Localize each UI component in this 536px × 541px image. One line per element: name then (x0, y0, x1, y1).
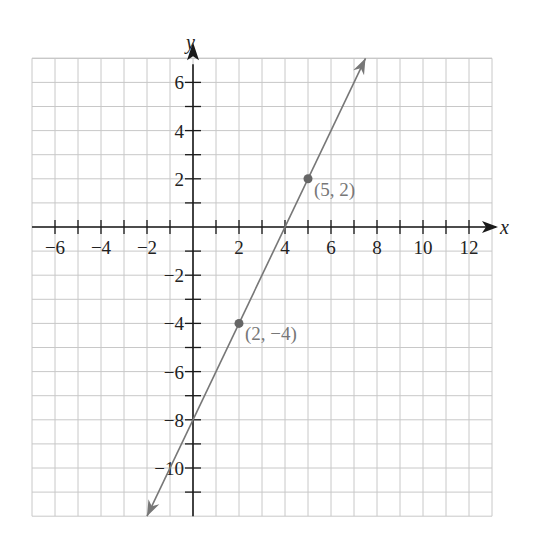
data-point-label: (2, −4) (245, 323, 297, 345)
grid-lines (32, 58, 492, 516)
data-point (235, 319, 244, 328)
coordinate-plane: −6−4−224681012642−2−4−6−8−10 (5, 2)(2, −… (0, 0, 536, 541)
x-tick-label: −4 (91, 237, 112, 258)
x-tick-label: 10 (414, 237, 433, 258)
x-tick-label: 4 (280, 237, 290, 258)
axes (32, 42, 498, 516)
x-axis-label: x (499, 216, 509, 238)
x-tick-label: −6 (45, 237, 65, 258)
y-tick-label: 4 (175, 121, 185, 142)
data-point (304, 174, 313, 183)
y-tick-label: −6 (164, 362, 184, 383)
y-tick-label: −2 (164, 265, 184, 286)
y-tick-label: −8 (164, 410, 184, 431)
x-tick-label: 2 (234, 237, 244, 258)
y-tick-label: −4 (164, 313, 185, 334)
plotted-points: (5, 2)(2, −4) (235, 174, 356, 345)
x-tick-label: 12 (460, 237, 479, 258)
y-tick-label: 2 (175, 169, 185, 190)
x-tick-label: −2 (137, 237, 157, 258)
y-tick-label: 6 (175, 72, 185, 93)
data-point-label: (5, 2) (314, 179, 355, 201)
x-tick-label: 6 (326, 237, 336, 258)
y-axis-label: y (184, 31, 195, 54)
x-tick-label: 8 (372, 237, 382, 258)
